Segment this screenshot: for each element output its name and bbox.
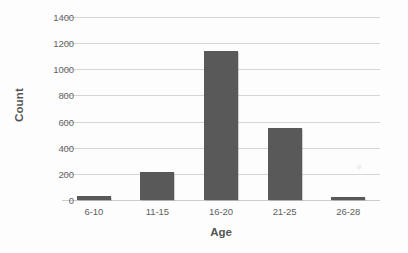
- y-tick-label-0: 0: [30, 195, 74, 206]
- x-tick-label-11-15: 11-15: [125, 206, 189, 217]
- bar[interactable]: [140, 172, 174, 200]
- y-tick-label-400: 400: [30, 142, 74, 153]
- bar[interactable]: [268, 128, 302, 200]
- x-tick-label-26-28: 26-28: [316, 206, 380, 217]
- gridline-0: [62, 200, 380, 201]
- x-axis-title: Age: [62, 226, 380, 238]
- x-tick-label-6-10: 6-10: [62, 206, 126, 217]
- y-axis-title: Count: [8, 0, 30, 210]
- y-tick-label-1200: 1200: [30, 38, 74, 49]
- bar[interactable]: [204, 51, 238, 200]
- bar[interactable]: [77, 196, 111, 200]
- y-tick-label-800: 800: [30, 90, 74, 101]
- y-tick-label-200: 200: [30, 168, 74, 179]
- bar-chart-figure: Count 0200400600800100012001400 6-1011-1…: [0, 0, 408, 253]
- y-tick-label-1400: 1400: [30, 12, 74, 23]
- y-tick-label-600: 600: [30, 116, 74, 127]
- y-tick-label-1000: 1000: [30, 64, 74, 75]
- bars-group: [62, 17, 380, 200]
- bar[interactable]: [331, 197, 365, 200]
- plot-area: [62, 17, 380, 200]
- bar-slot: [126, 17, 190, 200]
- bar-slot: [316, 17, 380, 200]
- y-axis-title-label: Count: [13, 88, 25, 122]
- x-tick-label-21-25: 21-25: [253, 206, 317, 217]
- bar-slot: [253, 17, 317, 200]
- x-tick-label-16-20: 16-20: [189, 206, 253, 217]
- bar-slot: [189, 17, 253, 200]
